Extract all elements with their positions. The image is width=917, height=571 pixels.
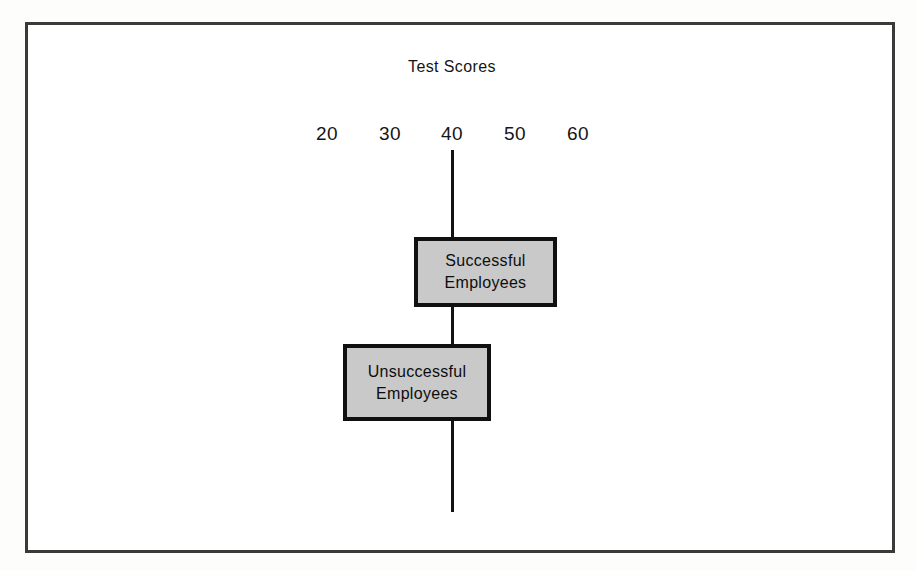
range-box-unsuccessful-label-line2: Employees bbox=[376, 383, 458, 405]
axis-reference-line bbox=[451, 150, 454, 512]
range-box-unsuccessful-employees: Unsuccessful Employees bbox=[343, 344, 491, 421]
range-box-successful-employees: Successful Employees bbox=[414, 237, 557, 307]
range-box-unsuccessful-label-line1: Unsuccessful bbox=[368, 361, 467, 383]
axis-tick-label-60: 60 bbox=[567, 123, 589, 145]
axis-tick-label-row: 20 30 40 50 60 bbox=[0, 123, 917, 149]
axis-tick-label-30: 30 bbox=[379, 123, 401, 145]
range-box-successful-label-line2: Employees bbox=[445, 272, 527, 294]
figure-root: Test Scores 20 30 40 50 60 Successful Em… bbox=[0, 0, 917, 571]
axis-tick-label-20: 20 bbox=[316, 123, 338, 145]
axis-tick-label-50: 50 bbox=[504, 123, 526, 145]
range-box-successful-label-line1: Successful bbox=[445, 250, 525, 272]
axis-tick-label-40: 40 bbox=[441, 123, 463, 145]
page-title: Test Scores bbox=[408, 58, 496, 76]
